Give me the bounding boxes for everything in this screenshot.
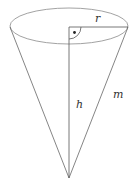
height-label: h — [76, 98, 83, 111]
cone-diagram: r h m — [0, 0, 134, 184]
right-angle-dot — [73, 31, 76, 34]
radius-label: r — [95, 12, 101, 25]
cone-left-side — [10, 27, 69, 178]
slant-label: m — [113, 88, 123, 101]
